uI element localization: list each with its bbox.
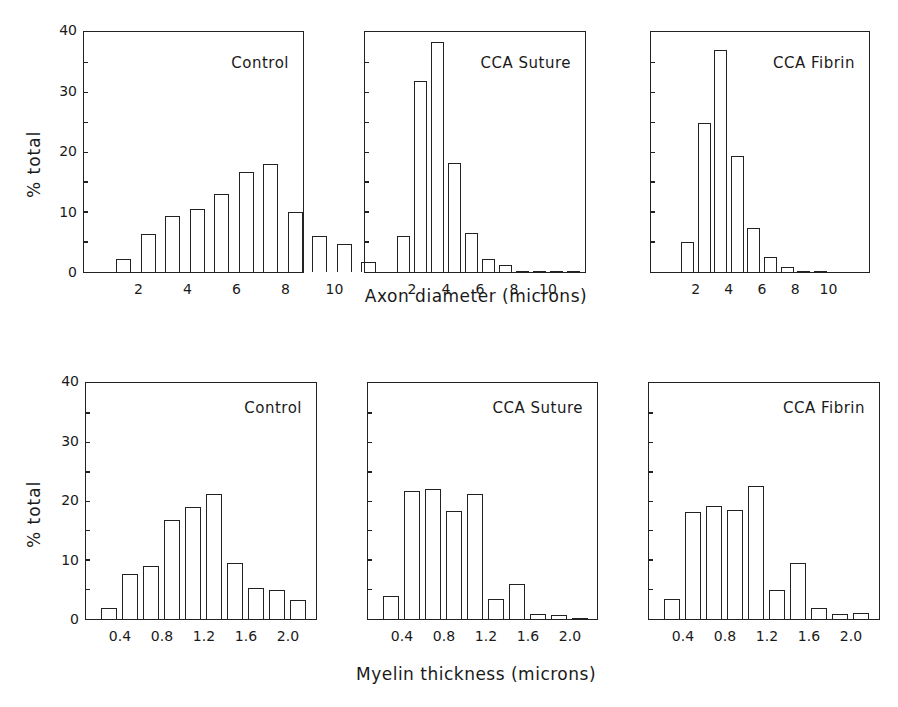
histogram-bar	[185, 507, 201, 619]
histogram-bar	[781, 267, 794, 272]
y-tick-mark	[650, 181, 655, 183]
y-tick-mark	[650, 152, 655, 154]
top-x-axis-label: Axon diameter (microns)	[365, 286, 587, 306]
histogram-bar	[214, 194, 229, 272]
y-tick-label: 0	[47, 264, 77, 280]
histogram-bar	[397, 236, 410, 272]
y-tick-mark	[85, 442, 90, 444]
histogram-bar	[269, 590, 285, 619]
x-tick-label: 1.6	[235, 628, 257, 644]
histogram-bar	[533, 271, 546, 273]
y-tick-label: 10	[49, 552, 79, 568]
histogram-bar	[414, 81, 427, 272]
y-tick-mark	[650, 92, 655, 94]
y-tick-mark	[367, 442, 372, 444]
histogram-bar	[288, 212, 303, 272]
histogram-panel-bottom-control: Control	[85, 382, 317, 620]
histogram-bar	[516, 271, 529, 273]
y-tick-mark	[85, 471, 90, 473]
panel-title: CCA Suture	[493, 399, 583, 417]
histogram-bar	[698, 123, 711, 272]
top-y-axis-label: % total	[24, 131, 44, 198]
histogram-bar	[731, 156, 744, 272]
y-tick-mark	[367, 471, 372, 473]
histogram-bar	[551, 615, 567, 619]
y-tick-label: 30	[47, 83, 77, 99]
y-tick-label: 20	[47, 143, 77, 159]
y-tick-mark	[367, 530, 372, 532]
histogram-bar	[572, 618, 588, 620]
histogram-bar	[706, 506, 722, 619]
x-tick-label: 0.4	[109, 628, 131, 644]
panel-title: CCA Fibrin	[783, 399, 865, 417]
histogram-bar	[488, 599, 504, 619]
histogram-bar	[141, 234, 156, 272]
histogram-bar	[811, 608, 827, 619]
y-tick-mark	[83, 152, 88, 154]
histogram-bar	[797, 271, 810, 273]
y-tick-mark	[648, 589, 653, 591]
y-tick-mark	[83, 181, 88, 183]
y-tick-label: 10	[47, 204, 77, 220]
x-tick-label: 2.0	[840, 628, 862, 644]
x-tick-label: 6	[232, 281, 241, 297]
histogram-bar	[227, 563, 243, 619]
x-tick-label: 0.4	[391, 628, 413, 644]
x-tick-label: 0.8	[433, 628, 455, 644]
histogram-panel-bottom-cca-fibrin: CCA Fibrin	[648, 382, 880, 620]
histogram-bar	[239, 172, 254, 272]
y-tick-mark	[85, 559, 90, 561]
y-tick-label: 20	[49, 492, 79, 508]
y-tick-mark	[648, 442, 653, 444]
y-tick-mark	[364, 211, 369, 213]
x-tick-label: 1.6	[798, 628, 820, 644]
y-tick-mark	[85, 589, 90, 591]
histogram-panel-top-control: Control	[83, 31, 304, 273]
histogram-bar	[550, 271, 563, 273]
y-tick-mark	[364, 241, 369, 243]
y-tick-mark	[83, 62, 88, 64]
histogram-bar	[714, 50, 727, 272]
histogram-bar	[499, 265, 512, 272]
histogram-bar	[685, 512, 701, 620]
histogram-bar	[312, 236, 327, 272]
x-tick-label: 6	[758, 281, 767, 297]
histogram-bar	[431, 42, 444, 272]
y-tick-mark	[85, 530, 90, 532]
y-tick-mark	[650, 62, 655, 64]
y-tick-mark	[648, 471, 653, 473]
histogram-bar	[190, 209, 205, 272]
y-tick-mark	[648, 559, 653, 561]
panel-title: CCA Fibrin	[773, 54, 855, 72]
x-tick-label: 1.2	[756, 628, 778, 644]
histogram-bar	[530, 614, 546, 619]
histogram-panel-top-cca-suture: CCA Suture	[364, 31, 586, 273]
y-tick-mark	[85, 501, 90, 503]
y-tick-mark	[650, 241, 655, 243]
x-tick-label: 2.0	[277, 628, 299, 644]
x-tick-label: 0.8	[714, 628, 736, 644]
y-tick-mark	[364, 122, 369, 124]
histogram-bar	[425, 489, 441, 619]
y-tick-mark	[364, 181, 369, 183]
histogram-bar	[248, 588, 264, 619]
histogram-bar	[165, 216, 180, 272]
panel-title: Control	[244, 399, 302, 417]
histogram-bar	[465, 233, 478, 272]
histogram-bar	[122, 574, 138, 619]
histogram-panel-top-cca-fibrin: CCA Fibrin	[650, 31, 870, 273]
histogram-bar	[832, 614, 848, 619]
x-tick-label: 4	[183, 281, 192, 297]
y-tick-label: 0	[49, 611, 79, 627]
histogram-bar	[101, 608, 117, 619]
bottom-x-axis-label: Myelin thickness (microns)	[356, 664, 596, 684]
histogram-bar	[290, 600, 306, 619]
histogram-bar	[263, 164, 278, 272]
y-tick-mark	[367, 559, 372, 561]
y-tick-mark	[648, 501, 653, 503]
histogram-bar	[143, 566, 159, 619]
y-tick-label: 40	[47, 22, 77, 38]
panel-title: Control	[231, 54, 289, 72]
histogram-bar	[790, 563, 806, 619]
histogram-bar	[446, 511, 462, 619]
